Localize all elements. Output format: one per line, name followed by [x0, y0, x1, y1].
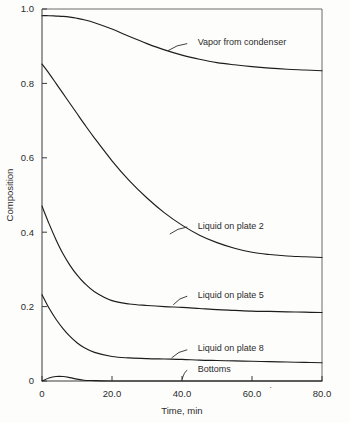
chart-figure: 020.040.060.080.0˙00.20.40.60.81.0Time, …	[0, 0, 350, 423]
x-axis-title: Time, min	[161, 405, 202, 416]
y-tick-label-2: 0.4	[21, 227, 34, 238]
x-tick-label-4: 80.0	[313, 388, 332, 399]
composition-vs-time-chart: 020.040.060.080.0˙00.20.40.60.81.0Time, …	[0, 0, 350, 423]
x-axis-artifact-mark: ˙	[269, 385, 272, 396]
series-label-liquid-on-plate-2: Liquid on plate 2	[198, 221, 264, 231]
series-label-liquid-on-plate-8: Liquid on plate 8	[198, 343, 264, 353]
y-axis-title: Composition	[4, 169, 15, 222]
x-tick-label-0: 0	[39, 388, 44, 399]
y-tick-label-0: 0	[29, 375, 34, 386]
series-label-bottoms: Bottoms	[198, 364, 232, 374]
x-tick-label-2: 40.0	[173, 388, 192, 399]
series-label-liquid-on-plate-5: Liquid on plate 5	[198, 290, 264, 300]
y-tick-label-4: 0.8	[21, 78, 34, 89]
y-tick-label-3: 0.6	[21, 152, 34, 163]
x-tick-label-3: 60.0	[243, 388, 262, 399]
series-label-vapor-from-condenser: Vapor from condenser	[198, 37, 286, 47]
y-tick-label-1: 0.2	[21, 301, 34, 312]
x-tick-label-1: 20.0	[103, 388, 122, 399]
y-tick-label-5: 1.0	[21, 3, 34, 14]
